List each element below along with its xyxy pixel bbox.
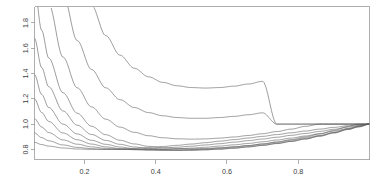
chart-figure: 0.20.40.60.8 0.81.01.21.41.61.8 [0,0,390,183]
chart-background [0,0,390,183]
y-tick-label: 1.2 [21,94,30,104]
y-tick-label: 1.8 [21,18,30,28]
x-tick-label: 0.6 [222,167,232,176]
y-tick-label: 1.0 [21,119,30,129]
x-tick-label: 0.4 [151,167,161,176]
line-chart-plot: 0.20.40.60.8 0.81.01.21.41.61.8 [0,0,390,183]
x-tick-label: 0.2 [79,167,89,176]
y-tick-label: 1.4 [21,69,30,79]
x-tick-label: 0.8 [293,167,303,176]
y-tick-label: 1.6 [21,43,30,53]
y-tick-label: 0.8 [21,144,30,154]
